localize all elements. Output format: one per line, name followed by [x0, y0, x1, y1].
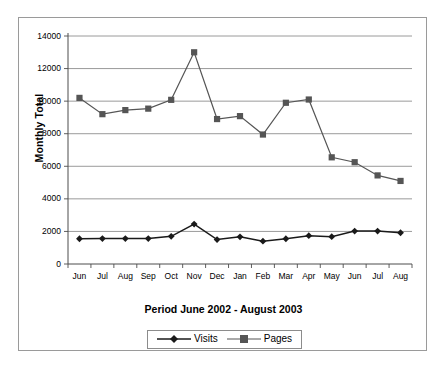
- diamond-marker-icon: [157, 334, 191, 344]
- y-tick-label: 2000: [19, 226, 61, 236]
- square-marker-icon: [227, 334, 261, 344]
- chart-legend: Visits Pages: [147, 330, 302, 349]
- x-tick-label: Aug: [386, 271, 416, 281]
- y-tick-label: 4000: [19, 193, 61, 203]
- y-tick-label: 10000: [19, 96, 61, 106]
- legend-entry-pages[interactable]: Pages: [227, 334, 292, 344]
- x-axis-title: Period June 2002 - August 2003: [19, 303, 428, 315]
- legend-label-pages: Pages: [264, 334, 292, 344]
- line-chart-plot: [19, 18, 428, 352]
- legend-label-visits: Visits: [194, 334, 218, 344]
- y-tick-label: 14000: [19, 31, 61, 41]
- legend-entry-visits[interactable]: Visits: [157, 334, 218, 344]
- y-tick-label: 6000: [19, 161, 61, 171]
- chart-frame: Monthly Total Period June 2002 - August …: [18, 17, 427, 351]
- y-tick-label: 0: [19, 259, 61, 269]
- y-tick-label: 12000: [19, 63, 61, 73]
- y-tick-label: 8000: [19, 128, 61, 138]
